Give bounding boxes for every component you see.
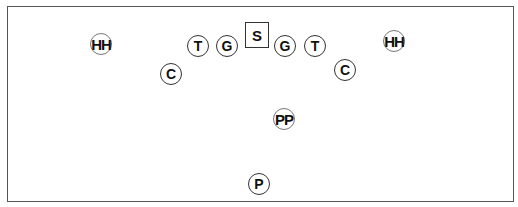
player-s-snapper: S	[245, 22, 269, 48]
player-p: P	[248, 173, 270, 195]
player-hh-left: HH	[90, 33, 112, 55]
player-t-right: T	[304, 35, 326, 57]
player-c-left: C	[160, 63, 182, 85]
player-c-right: C	[334, 59, 356, 81]
player-label: T	[194, 39, 203, 53]
player-t-left: T	[187, 35, 209, 57]
player-label: HH	[91, 37, 111, 52]
player-label: G	[280, 39, 291, 53]
player-label: S	[252, 27, 262, 44]
player-label: C	[166, 67, 176, 81]
player-g-right: G	[274, 35, 296, 57]
player-label: PP	[275, 112, 293, 127]
player-label: G	[222, 39, 233, 53]
player-label: HH	[384, 34, 404, 49]
player-label: T	[311, 39, 320, 53]
player-label: P	[254, 177, 263, 191]
player-label: C	[340, 63, 350, 77]
player-hh-right: HH	[383, 30, 405, 52]
player-g-left: G	[216, 35, 238, 57]
player-pp: PP	[273, 108, 295, 130]
